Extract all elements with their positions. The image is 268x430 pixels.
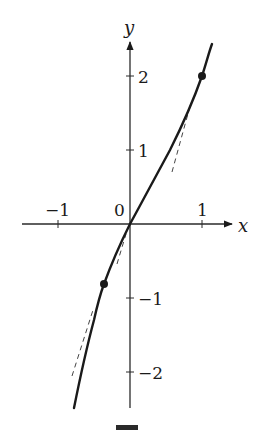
y-tick-label-1: 1 [138,141,149,161]
y-tick-label-2: 2 [138,67,149,87]
x-axis-label: x [238,215,248,236]
y-tick-label-neg2: −2 [138,363,163,383]
function-plot: x y −1 1 0 2 1 −1 −2 [0,0,268,430]
x-tick-label-1: 1 [197,200,208,220]
x-tick-label-neg1: −1 [45,200,70,220]
caption-fragment [116,425,138,430]
point-lower [100,280,108,288]
function-curve [74,44,212,408]
origin-label: 0 [114,200,125,220]
y-tick-label-neg1: −1 [138,289,163,309]
point-upper [198,72,206,80]
y-axis-label: y [123,17,135,38]
